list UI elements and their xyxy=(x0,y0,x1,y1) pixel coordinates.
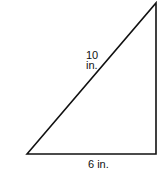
base-label: 6 in. xyxy=(88,159,109,169)
triangle-shape xyxy=(27,3,156,154)
right-triangle xyxy=(0,0,163,172)
hypotenuse-label-unit: in. xyxy=(86,60,98,70)
